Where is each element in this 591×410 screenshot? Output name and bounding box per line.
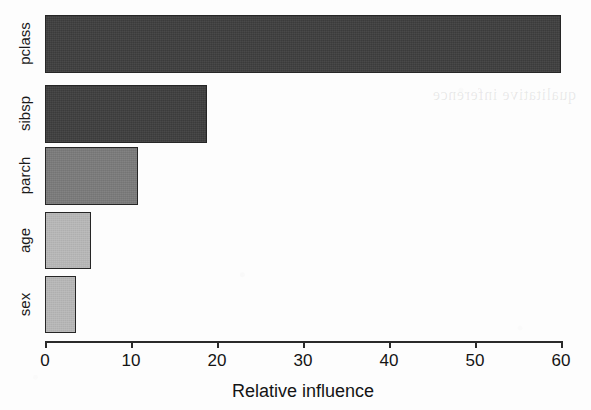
x-axis-tick-50: [475, 341, 477, 348]
relative-influence-figure: qualitative inference pclasssibspparchag…: [0, 0, 591, 410]
x-axis-tick-0: [45, 341, 47, 348]
x-axis-tick-label-50: 50: [445, 352, 505, 369]
x-axis-tick-label-0: 0: [15, 352, 75, 369]
x-axis-tick-10: [131, 341, 133, 348]
x-axis-tick-60: [561, 341, 563, 348]
y-axis-label-pclass: pclass: [17, 4, 32, 84]
x-axis-tick-30: [303, 341, 305, 348]
bar-age: [45, 212, 91, 269]
bar-parch: [45, 147, 138, 205]
scan-bleed-through-text: qualitative inference: [208, 86, 576, 108]
bar-sex: [45, 276, 76, 333]
x-axis-tick-label-60: 60: [531, 352, 591, 369]
bar-pclass: [45, 15, 561, 73]
x-axis-tick-label-10: 10: [101, 352, 161, 369]
x-axis-tick-40: [389, 341, 391, 348]
bar-sibsp: [45, 85, 207, 143]
y-axis-label-sex: sex: [17, 264, 32, 344]
x-axis-tick-label-40: 40: [359, 352, 419, 369]
x-axis-title: Relative influence: [45, 382, 561, 400]
plot-area: pclasssibspparchagesex0102030405060Relat…: [0, 0, 591, 410]
x-axis-tick-label-30: 30: [273, 352, 333, 369]
x-axis-tick-label-20: 20: [187, 352, 247, 369]
x-axis-tick-20: [217, 341, 219, 348]
